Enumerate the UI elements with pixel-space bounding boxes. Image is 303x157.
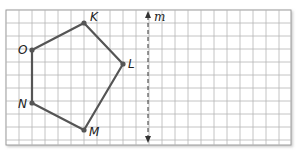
vertex-n (29, 100, 34, 105)
vertex-m (81, 127, 86, 132)
vertex-label-m: M (89, 125, 100, 139)
reflection-diagram: m KLMNO (0, 0, 303, 157)
vertex-label-k: K (90, 10, 99, 24)
vertex-label-n: N (18, 97, 27, 111)
line-m-label: m (154, 10, 165, 24)
vertex-o (29, 47, 34, 52)
vertex-label-l: L (128, 57, 135, 71)
vertex-l (120, 61, 125, 66)
vertex-k (81, 20, 86, 25)
vertex-label-o: O (18, 43, 27, 57)
